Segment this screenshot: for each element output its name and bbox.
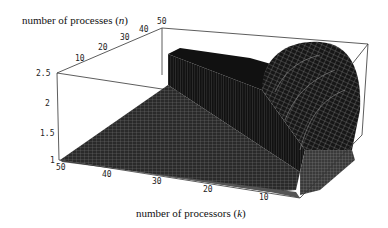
x-tick-label: 10 — [259, 193, 269, 202]
y-tick-label: 10 — [75, 54, 85, 63]
z-tick-label: 1 — [50, 156, 55, 165]
surface-dome-front — [300, 150, 355, 195]
x-tick-label: 20 — [203, 185, 213, 194]
z-tick-label: 2.5 — [36, 69, 51, 78]
z-ticks: 2.5 2 1.5 1 — [36, 69, 55, 165]
processors-axis-title: number of processors (k) — [136, 207, 246, 220]
frame-edge-left-vertical — [57, 73, 59, 160]
surface-chart: number of processes (n) number of proces… — [0, 0, 388, 228]
frame-edge-top-left — [57, 28, 162, 73]
y-tick-label: 20 — [98, 43, 108, 52]
frame-edge-right-vertical — [362, 44, 368, 135]
z-tick-label: 1.5 — [40, 129, 55, 138]
y-tick-label: 50 — [157, 17, 167, 26]
processes-axis-title: number of processes (n) — [22, 14, 128, 27]
x-tick-label: 40 — [102, 170, 112, 179]
x-tick-label: 30 — [152, 177, 162, 186]
y-tick-label: 30 — [120, 33, 130, 42]
y-tick-label: 40 — [139, 25, 149, 34]
x-tick-label: 50 — [56, 163, 66, 172]
frame-edge-top-back — [162, 28, 368, 44]
z-tick-label: 2 — [45, 99, 50, 108]
